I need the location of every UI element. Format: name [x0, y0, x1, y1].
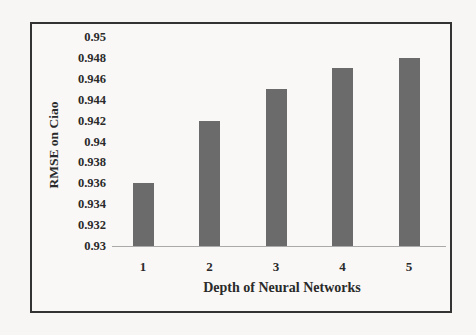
bar	[399, 58, 420, 246]
y-tick-label: 0.944	[78, 92, 106, 107]
y-tick-label: 0.932	[78, 218, 106, 233]
y-tick-label: 0.93	[84, 239, 106, 254]
y-tick-label: 0.942	[78, 113, 106, 128]
x-tick-label: 5	[406, 259, 413, 275]
y-tick-label: 0.948	[78, 50, 106, 65]
x-tick-label: 4	[339, 259, 346, 275]
y-tick-label: 0.936	[78, 176, 106, 191]
y-tick-label: 0.938	[78, 155, 106, 170]
x-tick-label: 2	[206, 259, 213, 275]
bar	[266, 89, 287, 246]
x-tick-label: 1	[140, 259, 147, 275]
y-tick-label: 0.94	[84, 134, 106, 149]
bar	[133, 183, 154, 246]
y-tick-label: 0.95	[84, 30, 106, 45]
y-tick-label: 0.934	[78, 197, 106, 212]
x-tick-label: 3	[273, 259, 280, 275]
x-axis-line	[112, 246, 446, 247]
x-axis-label: Depth of Neural Networks	[203, 280, 360, 296]
y-tick-label: 0.946	[78, 71, 106, 86]
bar	[199, 121, 220, 246]
y-axis-label: RMSE on Ciao	[46, 101, 62, 188]
bar	[332, 68, 353, 246]
